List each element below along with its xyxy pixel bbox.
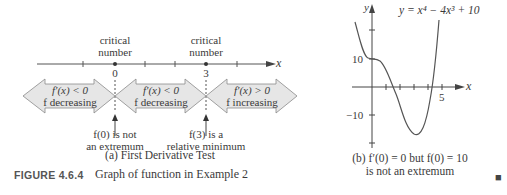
function-behavior: f decreasing — [127, 96, 195, 108]
critical-label-line2: number — [186, 46, 226, 58]
function-curve — [355, 20, 439, 135]
interval-1-text: f′(x) < 0 f decreasing — [36, 84, 104, 108]
panel-a-caption: (a) First Derivative Test — [100, 149, 220, 162]
annotation-line1: f(3) is a — [161, 128, 251, 140]
x-axis-label: x — [276, 57, 281, 69]
critical-value-0: 0 — [110, 67, 120, 79]
y-tick-neg10: −10 — [346, 109, 363, 121]
end-of-example-marker: ■ — [495, 171, 502, 183]
critical-value-3: 3 — [201, 67, 211, 79]
panel-b-caption: (b) f′(0) = 0 but f(0) = 10 is not an ex… — [345, 152, 475, 178]
critical-label-line1: critical — [95, 34, 135, 46]
derivative-sign: f′(x) > 0 — [218, 84, 286, 96]
function-behavior: f decreasing — [36, 96, 104, 108]
annotation-line1: f(0) is not — [80, 128, 150, 140]
y-tick-10: 10 — [352, 53, 363, 65]
derivative-sign: f′(x) < 0 — [36, 84, 104, 96]
x-tick-5: 5 — [439, 91, 445, 103]
y-axis-label: y — [364, 1, 369, 13]
critical-label-line2: number — [95, 46, 135, 58]
function-behavior: f increasing — [218, 96, 286, 108]
interval-2-text: f′(x) < 0 f decreasing — [127, 84, 195, 108]
figure-title: Graph of function in Example 2 — [95, 167, 248, 182]
graph-x-label: x — [466, 80, 471, 92]
interval-3-text: f′(x) > 0 f increasing — [218, 84, 286, 108]
equation-label: y = x⁴ − 4x³ + 10 — [399, 4, 480, 16]
panel-b-caption-line2: is not an extremum — [345, 165, 475, 178]
figure-number: FIGURE 4.6.4 — [14, 169, 84, 181]
derivative-sign: f′(x) < 0 — [127, 84, 195, 96]
panel-b-caption-line1: (b) f′(0) = 0 but f(0) = 10 — [345, 152, 475, 165]
critical-label-line1: critical — [186, 34, 226, 46]
critical-label-3: critical number — [186, 34, 226, 58]
critical-label-0: critical number — [95, 34, 135, 58]
